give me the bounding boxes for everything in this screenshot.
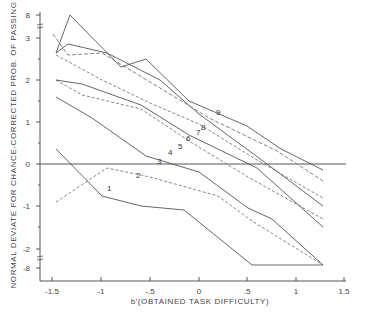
x-tick-labels: -1.5 -1 -.5 0 .5 1 1.5 — [45, 287, 350, 296]
y-tick-label-8: 8 — [26, 11, 31, 20]
y-tick-label-2: 2 — [26, 76, 31, 85]
y-ticks — [36, 15, 40, 268]
curve-label-1: 1 — [107, 184, 112, 193]
curve-2 — [56, 168, 323, 265]
x-axis-title: b'(OBTAINED TASK DIFFICULTY) — [131, 297, 270, 306]
y-tick-label-m2: -2 — [23, 245, 31, 254]
curve-label-4: 4 — [168, 148, 173, 157]
x-tick-label: -1 — [97, 287, 105, 296]
y-tick-label-3: 3 — [26, 34, 31, 43]
x-tick-label: 0 — [197, 287, 202, 296]
x-tick-label: -.5 — [145, 287, 155, 296]
curve-label-5: 5 — [178, 142, 183, 151]
curve-9 — [56, 15, 323, 170]
y-tick-label-1: 1 — [26, 118, 31, 127]
x-tick-label: 1.5 — [338, 287, 350, 296]
x-tick-label: .5 — [244, 287, 251, 296]
line-chart: 8 3 2 1 0 -1 -2 -8 -1.5 -1 -.5 0 .5 1 1.… — [0, 0, 367, 317]
x-tick-label: -1.5 — [45, 287, 59, 296]
y-axis-title: NORMAL DEVIATE FOR CHANCE-CORRECTED PROB… — [9, 1, 18, 288]
y-tick-label-m8: -8 — [23, 264, 31, 273]
y-tick-label-m1: -1 — [23, 202, 31, 211]
curve-1 — [56, 149, 323, 265]
y-tick-label-0: 0 — [26, 160, 31, 169]
curve-label-2: 2 — [136, 171, 141, 180]
curve-8 — [53, 34, 323, 181]
curve-5 — [56, 80, 323, 227]
curve-6 — [56, 55, 323, 198]
x-tick-label: 1 — [294, 287, 299, 296]
curve-7 — [56, 44, 323, 206]
x-ticks — [52, 277, 344, 281]
curve-label-8: 8 — [201, 123, 206, 132]
curve-label-3: 3 — [157, 157, 162, 166]
curve-label-9: 9 — [216, 108, 221, 117]
curve-label-6: 6 — [186, 134, 191, 143]
y-tick-labels: 8 3 2 1 0 -1 -2 -8 — [23, 11, 31, 273]
curve-3 — [56, 97, 323, 265]
